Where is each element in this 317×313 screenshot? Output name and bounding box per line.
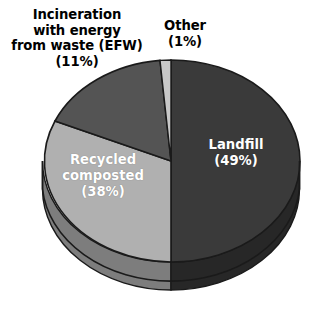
slice-label-landfill: Landfill (49%) bbox=[188, 137, 284, 169]
pie-chart: Incineration with energy from waste (EFW… bbox=[0, 0, 317, 313]
slice-label-efw: Incineration with energy from waste (EFW… bbox=[2, 7, 152, 69]
slice-label-recycled: Recycled composted (38%) bbox=[44, 152, 162, 200]
slice-label-other: Other (1%) bbox=[142, 18, 228, 49]
